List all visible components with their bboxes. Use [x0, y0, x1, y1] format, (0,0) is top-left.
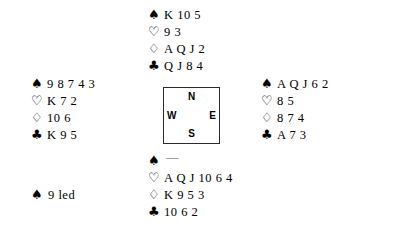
heart-icon: ♡ — [261, 92, 274, 109]
suit-line-spades: ♠ — — [148, 152, 233, 169]
card-rank-list: 10 6 — [44, 110, 71, 127]
club-icon: ♣ — [148, 203, 161, 220]
void-dash: — — [161, 149, 179, 166]
opening-lead-note: ♠ 9 led — [31, 186, 75, 204]
suit-line-diamonds: ♢ K 9 5 3 — [148, 186, 233, 203]
heart-icon: ♡ — [148, 169, 161, 186]
compass-box: N W E S — [163, 87, 220, 144]
suit-line-diamonds: ♢ 10 6 — [31, 109, 95, 126]
club-icon: ♣ — [148, 57, 161, 74]
suit-line-clubs: ♣ 10 6 2 — [148, 203, 233, 220]
hand-south: ♠ — ♡ A Q J 10 6 4 ♢ K 9 5 3 ♣ 10 6 2 — [148, 152, 233, 220]
suit-line-hearts: ♡ K 7 2 — [31, 92, 95, 109]
compass-label-north: N — [188, 92, 195, 102]
suit-line-hearts: ♡ 8 5 — [261, 92, 329, 109]
spade-icon: ♠ — [31, 75, 44, 92]
heart-icon: ♡ — [31, 92, 44, 109]
heart-icon: ♡ — [148, 23, 161, 40]
card-rank-list: Q J 8 4 — [161, 58, 203, 75]
card-rank-list: 9 3 — [161, 24, 181, 41]
card-rank-list: 8 5 — [274, 93, 294, 110]
card-rank-list: K 9 5 3 — [161, 187, 205, 204]
card-rank-list: A Q J 6 2 — [274, 76, 329, 93]
suit-line-clubs: ♣ K 9 5 — [31, 126, 95, 143]
card-rank-list: 8 7 4 — [274, 110, 305, 127]
card-rank-list: K 7 2 — [44, 93, 77, 110]
spade-icon: ♠ — [148, 6, 161, 23]
opening-lead-text: 9 led — [44, 187, 75, 204]
card-rank-list: A Q J 2 — [161, 41, 205, 58]
suit-line-clubs: ♣ A 7 3 — [261, 126, 329, 143]
spade-icon: ♠ — [31, 186, 44, 203]
suit-line-spades: ♠ K 10 5 — [148, 6, 205, 23]
suit-line-diamonds: ♢ 8 7 4 — [261, 109, 329, 126]
suit-line-hearts: ♡ 9 3 — [148, 23, 205, 40]
compass-label-west: W — [167, 111, 176, 121]
spade-icon: ♠ — [261, 75, 274, 92]
diamond-icon: ♢ — [261, 109, 274, 126]
card-rank-list: K 10 5 — [161, 7, 201, 24]
card-rank-list: A Q J 10 6 4 — [161, 170, 233, 187]
card-rank-list: A 7 3 — [274, 127, 307, 144]
diamond-icon: ♢ — [148, 186, 161, 203]
suit-line-diamonds: ♢ A Q J 2 — [148, 40, 205, 57]
suit-line-hearts: ♡ A Q J 10 6 4 — [148, 169, 233, 186]
club-icon: ♣ — [261, 126, 274, 143]
compass-label-east: E — [209, 111, 216, 121]
club-icon: ♣ — [31, 126, 44, 143]
hand-north: ♠ K 10 5 ♡ 9 3 ♢ A Q J 2 ♣ Q J 8 4 — [148, 6, 205, 74]
diamond-icon: ♢ — [31, 109, 44, 126]
compass-label-south: S — [188, 129, 195, 139]
card-rank-list: 10 6 2 — [161, 204, 198, 221]
card-rank-list: 9 8 7 4 3 — [44, 76, 95, 93]
suit-line-clubs: ♣ Q J 8 4 — [148, 57, 205, 74]
diamond-icon: ♢ — [148, 40, 161, 57]
suit-line-spades: ♠ A Q J 6 2 — [261, 75, 329, 92]
suit-line-spades: ♠ 9 8 7 4 3 — [31, 75, 95, 92]
spade-icon: ♠ — [148, 152, 161, 169]
hand-west: ♠ 9 8 7 4 3 ♡ K 7 2 ♢ 10 6 ♣ K 9 5 — [31, 75, 95, 143]
card-rank-list: K 9 5 — [44, 127, 77, 144]
hand-east: ♠ A Q J 6 2 ♡ 8 5 ♢ 8 7 4 ♣ A 7 3 — [261, 75, 329, 143]
